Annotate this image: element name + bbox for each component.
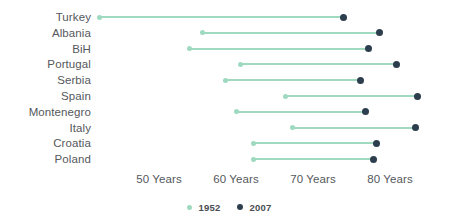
- data-point-2007[interactable]: [362, 108, 369, 115]
- connector-line: [254, 142, 376, 144]
- data-point-1952[interactable]: [234, 109, 239, 114]
- dumbbell-row: [0, 137, 458, 149]
- data-point-2007[interactable]: [412, 124, 419, 131]
- data-point-1952[interactable]: [223, 78, 228, 83]
- data-point-1952[interactable]: [290, 125, 295, 130]
- x-tick-label: 80 Years: [367, 172, 413, 186]
- data-point-1952[interactable]: [238, 62, 243, 67]
- legend-item[interactable]: 2007: [237, 202, 272, 213]
- data-point-2007[interactable]: [370, 156, 377, 163]
- dumbbell-row: [0, 153, 458, 165]
- data-point-2007[interactable]: [340, 14, 347, 21]
- legend-label: 1952: [199, 202, 221, 213]
- data-point-2007[interactable]: [414, 93, 421, 100]
- dumbbell-row: [0, 43, 458, 55]
- legend-swatch-icon: [187, 205, 192, 210]
- data-point-1952[interactable]: [97, 15, 102, 20]
- connector-line: [226, 79, 361, 81]
- data-point-2007[interactable]: [373, 140, 380, 147]
- data-point-1952[interactable]: [251, 141, 256, 146]
- connector-line: [254, 158, 374, 160]
- data-point-1952[interactable]: [187, 46, 192, 51]
- legend-label: 2007: [250, 202, 272, 213]
- connector-line: [241, 63, 397, 65]
- data-point-2007[interactable]: [357, 77, 364, 84]
- data-point-2007[interactable]: [376, 29, 383, 36]
- legend-item[interactable]: 1952: [187, 202, 221, 213]
- connector-line: [190, 48, 369, 50]
- data-point-1952[interactable]: [283, 94, 288, 99]
- x-axis-tick-labels: 50 Years60 Years70 Years80 Years: [0, 172, 458, 192]
- dumbbell-row: [0, 74, 458, 86]
- dumbbell-row: [0, 11, 458, 23]
- connector-line: [237, 111, 366, 113]
- connector-line: [202, 32, 379, 34]
- x-tick-label: 60 Years: [213, 172, 259, 186]
- dumbbell-chart: TurkeyAlbaniaBiHPortugalSerbiaSpainMonte…: [0, 0, 458, 223]
- plot-area: [0, 0, 458, 170]
- legend-swatch-icon: [237, 204, 243, 210]
- connector-line: [293, 127, 415, 129]
- connector-line: [285, 95, 417, 97]
- dumbbell-row: [0, 27, 458, 39]
- dumbbell-row: [0, 106, 458, 118]
- dumbbell-row: [0, 90, 458, 102]
- x-tick-label: 70 Years: [290, 172, 336, 186]
- data-point-2007[interactable]: [393, 61, 400, 68]
- data-point-1952[interactable]: [251, 157, 256, 162]
- x-tick-label: 50 Years: [136, 172, 182, 186]
- data-point-1952[interactable]: [200, 30, 205, 35]
- dumbbell-row: [0, 122, 458, 134]
- dumbbell-row: [0, 58, 458, 70]
- chart-legend: 19522007: [0, 199, 458, 215]
- connector-line: [100, 16, 343, 18]
- data-point-2007[interactable]: [365, 45, 372, 52]
